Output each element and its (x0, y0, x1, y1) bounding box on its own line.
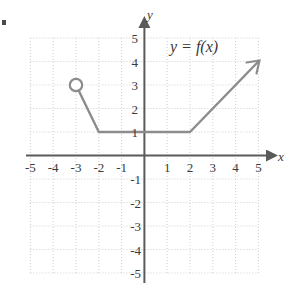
page-speck (2, 20, 6, 25)
y-tick-label: 3 (132, 78, 139, 93)
x-tick-label: 3 (210, 160, 217, 175)
x-tick-label: -5 (25, 160, 36, 175)
y-tick-label: -5 (130, 266, 141, 281)
x-tick-label: 4 (232, 160, 239, 175)
x-tick-label: 1 (164, 160, 171, 175)
graph-figure: -5 -4 -3 -2 -1 1 2 3 4 5 5 4 3 2 1 -1 -2… (0, 0, 301, 295)
coordinate-plane: -5 -4 -3 -2 -1 1 2 3 4 5 5 4 3 2 1 -1 -2… (0, 0, 301, 295)
y-axis-label: y (145, 7, 153, 22)
open-endpoint-circle (70, 79, 82, 91)
function-curve (76, 62, 258, 133)
y-tick-label: -2 (130, 196, 141, 211)
y-tick-label: -4 (130, 243, 141, 258)
y-tick-label: 4 (132, 55, 139, 70)
y-tick-label: 2 (132, 102, 139, 117)
x-tick-label: -2 (93, 160, 104, 175)
x-tick-label: 2 (187, 160, 194, 175)
x-tick-label: -1 (116, 160, 127, 175)
y-tick-label: -1 (130, 172, 141, 187)
y-tick-label: 5 (132, 31, 139, 46)
function-label: y = f(x) (168, 38, 218, 56)
x-tick-label: -3 (71, 160, 82, 175)
x-axis-label: x (277, 149, 284, 164)
x-tick-label: 5 (255, 160, 262, 175)
y-tick-label: -3 (130, 219, 141, 234)
y-tick-label: 1 (132, 125, 139, 140)
x-tick-label: -4 (48, 160, 59, 175)
